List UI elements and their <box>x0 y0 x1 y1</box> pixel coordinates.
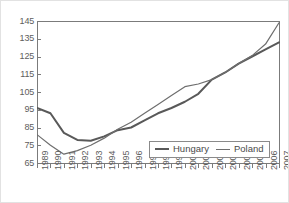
legend-entry-hungary: Hungary <box>155 144 209 154</box>
y-tick-mark <box>37 57 41 58</box>
x-tick-mark <box>64 164 65 168</box>
x-tick-mark <box>225 164 226 168</box>
y-tick-label: 135 <box>6 34 34 43</box>
legend-swatch-hungary <box>155 148 169 150</box>
line-chart-figure: 65758595105115125135145 1989199019911992… <box>0 0 289 203</box>
y-axis: 65758595105115125135145 <box>1 1 34 203</box>
y-tick-mark <box>37 74 41 75</box>
x-tick-mark <box>252 164 253 168</box>
legend-entry-poland: Poland <box>216 144 264 154</box>
y-tick-label: 65 <box>6 159 34 168</box>
chart-legend: Hungary Poland <box>149 141 270 158</box>
x-tick-mark <box>50 164 51 168</box>
x-tick-label: 1994 <box>108 151 117 170</box>
x-tick-mark <box>171 164 172 168</box>
x-tick-mark <box>77 164 78 168</box>
x-tick-mark <box>91 164 92 168</box>
x-tick-mark <box>104 164 105 168</box>
x-tick-mark <box>131 164 132 168</box>
line-series-poland <box>37 23 279 154</box>
x-tick-mark <box>145 164 146 168</box>
y-tick-label: 85 <box>6 123 34 132</box>
y-tick-mark <box>37 39 41 40</box>
y-tick-mark <box>37 92 41 93</box>
x-tick-label: 1990 <box>54 151 63 170</box>
x-tick-mark <box>239 164 240 168</box>
legend-label-poland: Poland <box>234 144 264 154</box>
x-tick-mark <box>37 164 38 168</box>
y-tick-mark <box>37 145 41 146</box>
x-tick-mark <box>118 164 119 168</box>
x-tick-mark <box>158 164 159 168</box>
y-tick-label: 145 <box>6 17 34 26</box>
x-tick-label: 1989 <box>41 151 50 170</box>
y-tick-label: 95 <box>6 105 34 114</box>
line-series-hungary <box>37 42 279 141</box>
legend-label-hungary: Hungary <box>173 144 209 154</box>
x-tick-label: 2006 <box>270 151 279 170</box>
y-tick-label: 125 <box>6 52 34 61</box>
x-tick-mark <box>212 164 213 168</box>
legend-swatch-poland <box>216 149 230 150</box>
y-tick-mark <box>37 110 41 111</box>
y-tick-mark <box>37 128 41 129</box>
x-tick-mark <box>279 164 280 168</box>
y-tick-label: 105 <box>6 88 34 97</box>
x-tick-label: 1992 <box>81 151 90 170</box>
x-tick-label: 1993 <box>95 151 104 170</box>
y-tick-label: 75 <box>6 141 34 150</box>
x-tick-mark <box>185 164 186 168</box>
x-tick-mark <box>198 164 199 168</box>
x-tick-label: 1996 <box>135 151 144 170</box>
x-tick-label: 1991 <box>68 151 77 170</box>
x-tick-label: 2007 <box>283 151 289 170</box>
x-tick-mark <box>266 164 267 168</box>
y-tick-label: 115 <box>6 70 34 79</box>
x-tick-label: 1995 <box>122 151 131 170</box>
